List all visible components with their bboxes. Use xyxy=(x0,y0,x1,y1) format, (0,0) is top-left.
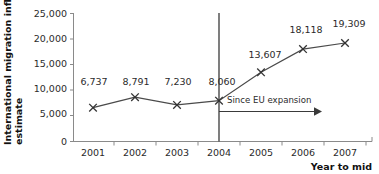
x-tick-label-2002: 2002 xyxy=(123,147,147,158)
data-label-2003: 7,230 xyxy=(164,76,191,87)
x-tick-label-2006: 2006 xyxy=(291,147,315,158)
y-tick-label-5000: 5,000 xyxy=(40,108,67,119)
data-point-2001 xyxy=(89,104,97,112)
y-axis-title-line1: International migration inflow xyxy=(2,0,13,145)
data-label-2004: 8,060 xyxy=(208,76,235,87)
x-tick-label-2003: 2003 xyxy=(165,147,189,158)
x-axis-tick-labels: 2001 2002 2003 2004 2005 2006 2007 xyxy=(81,147,357,158)
eu-expansion-annotation: Since EU expansion xyxy=(219,95,322,116)
x-axis-title: Year to mid xyxy=(310,161,372,172)
data-label-2005: 13,607 xyxy=(248,49,281,60)
data-point-2005 xyxy=(257,69,265,77)
x-tick-label-2001: 2001 xyxy=(81,147,105,158)
y-axis-title: International migration inflow estimate xyxy=(2,0,24,145)
y-tick-label-10000: 10,000 xyxy=(34,83,67,94)
y-tick-label-20000: 20,000 xyxy=(34,33,67,44)
y-tick-label-0: 0 xyxy=(61,136,67,147)
data-label-2006: 18,118 xyxy=(289,24,322,35)
data-value-labels: 6,737 8,791 7,230 8,060 13,607 18,118 19… xyxy=(80,18,365,87)
data-label-2002: 8,791 xyxy=(122,76,149,87)
chart-screenshot: International migration inflow estimate … xyxy=(0,0,379,174)
x-tick-label-2007: 2007 xyxy=(333,147,357,158)
y-axis xyxy=(70,13,74,142)
eu-expansion-arrow-head-icon xyxy=(314,107,322,116)
y-tick-label-15000: 15,000 xyxy=(34,58,67,69)
y-tick-label-25000: 25,000 xyxy=(34,8,67,19)
data-label-2001: 6,737 xyxy=(80,76,107,87)
y-axis-title-line2: estimate xyxy=(13,98,24,145)
x-tick-label-2005: 2005 xyxy=(249,147,273,158)
migration-inflow-line-chart: International migration inflow estimate … xyxy=(0,0,379,174)
y-axis-tick-labels: 25,000 20,000 15,000 10,000 5,000 0 xyxy=(34,8,67,147)
x-tick-label-2004: 2004 xyxy=(207,147,231,158)
eu-expansion-label: Since EU expansion xyxy=(227,95,311,105)
data-label-2007: 19,309 xyxy=(332,18,365,29)
x-axis xyxy=(74,137,373,146)
